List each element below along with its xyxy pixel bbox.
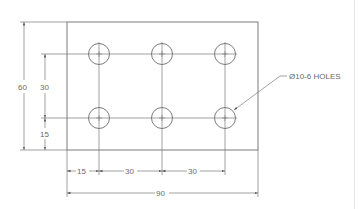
- dim-label-30-vertical: 30: [40, 83, 49, 92]
- dimension-left-column-offset: 15: [67, 167, 99, 176]
- dim-label-60: 60: [18, 83, 27, 92]
- hole-callout-text: Ø10-6 HOLES: [289, 72, 341, 81]
- dimension-bottom-row-offset: 15: [40, 118, 49, 150]
- dimension-row-spacing: 30: [40, 54, 49, 118]
- plate-outline: [67, 22, 258, 150]
- dimension-column-spacing-1: 30: [99, 167, 162, 176]
- hole-callout-leader: Ø10-6 HOLES: [234, 72, 341, 110]
- dim-label-30-horizontal-2: 30: [188, 167, 197, 176]
- dimension-overall-height: 60: [18, 22, 27, 150]
- engineering-drawing: 60 30 15 15 30 30 90 Ø10-6 HOLES: [0, 0, 358, 209]
- dim-label-90: 90: [156, 189, 165, 198]
- dim-label-15-vertical: 15: [40, 130, 49, 139]
- dim-label-15-horizontal: 15: [77, 167, 86, 176]
- dimension-overall-width: 90: [67, 189, 258, 198]
- dimension-column-spacing-2: 30: [162, 167, 225, 176]
- dim-label-30-horizontal-1: 30: [125, 167, 134, 176]
